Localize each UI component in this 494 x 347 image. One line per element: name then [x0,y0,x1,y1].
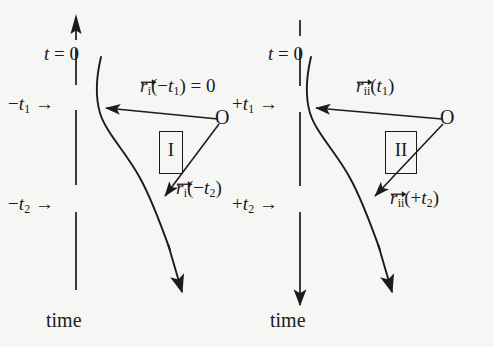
panel-I-tick-minus-t1: −t1 → [8,94,54,116]
panel-I-graphics [71,14,220,292]
panel-II-vector-arrow-t1 [316,108,442,119]
panel-I-worldline-arrow [168,244,182,292]
panel-I-t-zero-label: t = 0 [44,44,79,63]
panel-II-roman-box: II [385,131,417,174]
panel-II-worldline-arrow [378,244,392,292]
panel-I-vector-arrow-t1 [106,108,218,119]
panel-II-graphics [300,20,443,305]
panel-I-vector-label-t1: ri(−t1) = 0 [140,76,215,98]
worldline-figure: t = 0 −t1 → −t2 → ri(−t1) = 0 O I ri(− [0,0,494,347]
panel-I-time-caption: time [46,310,82,330]
panel-II-tick-plus-t2: +t2 → [232,194,278,216]
panel-II-vector-label-t1: rii(t1) [356,76,394,98]
panel-I-tick-minus-t2: −t2 → [8,194,54,216]
panel-II-time-caption: time [270,310,306,330]
panel-I-origin-label: O [215,107,229,127]
panel-II-tick-plus-t1: +t1 → [232,94,278,116]
panel-I-vector-label-t2: ri(−t2) [176,178,222,200]
panel-II-vector-label-t2: rii(+t2) [390,188,439,210]
panel-I-roman-box: I [159,131,183,174]
panel-II-origin-label: O [440,107,454,127]
panel-II-t-zero-label: t = 0 [268,44,303,63]
